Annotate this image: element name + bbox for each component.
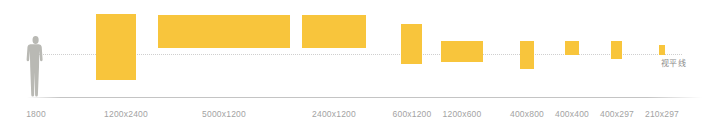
panel-bar	[441, 41, 483, 62]
axis-label: 400x400	[555, 109, 589, 119]
signage-scale-comparison-chart: 视平线 18001200x24005000x12002400x1200600x1…	[0, 0, 715, 134]
panel-bar	[158, 15, 290, 48]
panel-bar	[659, 45, 665, 55]
eye-level-label: 视平线	[661, 57, 686, 68]
panel-bar	[96, 14, 136, 80]
axis-label: 400x297	[600, 109, 634, 119]
axis-label: 1200x600	[443, 109, 482, 119]
axis-label: 600x1200	[393, 109, 432, 119]
panel-bar	[401, 24, 422, 64]
axis-label: 2400x1200	[312, 109, 356, 119]
panel-bar	[302, 15, 366, 48]
axis-label: 1800	[26, 109, 46, 119]
panel-bar	[565, 41, 579, 55]
human-scale-figure-icon	[26, 35, 46, 97]
axis-label: 210x297	[645, 109, 679, 119]
panel-bar	[611, 41, 622, 59]
axis-label: 5000x1200	[202, 109, 246, 119]
panel-bar	[520, 41, 534, 69]
axis-label: 400x800	[510, 109, 544, 119]
axis-label: 1200x2400	[104, 109, 148, 119]
ground-baseline	[27, 97, 702, 98]
